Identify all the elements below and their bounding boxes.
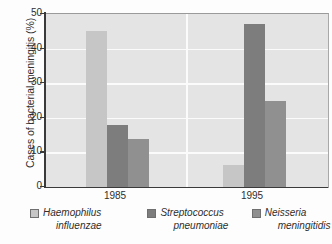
x-axis-label-1995: 1995 xyxy=(222,190,282,201)
legend-label-neisseria-line2: meningitidis xyxy=(265,220,331,233)
y-axis-line xyxy=(44,12,46,188)
x-axis-label-1985: 1985 xyxy=(85,190,145,201)
legend-label-haemophilus: Haemophilus influenzae xyxy=(43,207,102,232)
bar-chart-figure: Cases of bacterial meningitis (%) 50 40 … xyxy=(0,0,332,244)
bar-1995-haemophilus-influenzae xyxy=(223,165,244,187)
legend-swatch-icon-haemophilus xyxy=(30,209,39,218)
gridline-group-separator xyxy=(186,14,188,187)
bar-1985-haemophilus-influenzae xyxy=(86,31,107,187)
legend-item-haemophilus-influenzae: Haemophilus influenzae xyxy=(10,207,141,232)
legend-item-streptococcus-pneumoniae: Streptococcus pneumoniae xyxy=(141,207,249,232)
legend-label-streptococcus-line2: pneumoniae xyxy=(160,220,228,233)
x-axis-line xyxy=(44,187,328,189)
legend-item-neisseria-meningitidis: Neisseria meningitidis xyxy=(250,207,332,232)
legend-label-streptococcus: Streptococcus pneumoniae xyxy=(160,207,228,232)
legend-label-haemophilus-line2: influenzae xyxy=(43,220,102,233)
plot-area xyxy=(45,13,329,188)
bar-1985-neisseria-meningitidis xyxy=(128,139,149,187)
legend-label-streptococcus-line1: Streptococcus xyxy=(160,207,223,218)
legend-label-neisseria-line1: Neisseria xyxy=(265,207,307,218)
legend-swatch-icon-neisseria xyxy=(252,209,261,218)
legend-swatch-icon-streptococcus xyxy=(147,209,156,218)
bar-1995-streptococcus-pneumoniae xyxy=(244,24,265,187)
bar-1995-neisseria-meningitidis xyxy=(265,101,286,188)
legend-label-neisseria: Neisseria meningitidis xyxy=(265,207,331,232)
bar-1985-streptococcus-pneumoniae xyxy=(107,125,128,187)
chart-legend: Haemophilus influenzae Streptococcus pne… xyxy=(10,207,332,241)
legend-label-haemophilus-line1: Haemophilus xyxy=(43,207,101,218)
